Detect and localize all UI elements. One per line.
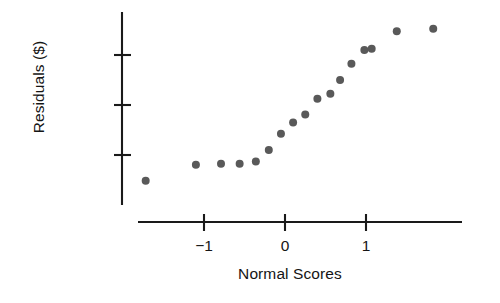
plot-area — [0, 0, 500, 303]
data-point — [336, 76, 344, 84]
data-point — [289, 119, 297, 127]
data-point — [368, 45, 376, 53]
data-point — [326, 90, 334, 98]
data-point — [192, 161, 200, 169]
data-point — [142, 177, 150, 185]
data-point-group — [142, 25, 438, 185]
axis-group — [122, 12, 462, 222]
data-point — [313, 95, 321, 103]
scatter-chart: Residuals ($) Normal Scores −400004000 −… — [0, 0, 500, 303]
data-point — [236, 160, 244, 168]
data-point — [393, 27, 401, 35]
data-point — [347, 60, 355, 68]
data-point — [265, 146, 273, 154]
data-point — [301, 110, 309, 118]
data-point — [429, 25, 437, 33]
data-point — [360, 46, 368, 54]
data-point — [277, 130, 285, 138]
data-point — [217, 160, 225, 168]
data-point — [252, 158, 260, 166]
